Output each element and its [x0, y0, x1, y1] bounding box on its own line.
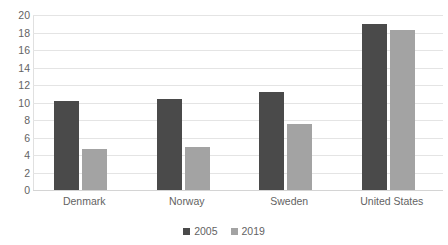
legend-label: 2019	[242, 226, 265, 237]
bar[interactable]	[259, 92, 284, 190]
y-axis-tick-label: 20	[4, 10, 30, 20]
y-axis-tick-label: 12	[4, 80, 30, 90]
bar[interactable]	[287, 124, 312, 191]
legend-swatch-icon	[231, 228, 238, 235]
y-axis-tick-label: 18	[4, 28, 30, 38]
bar-group	[238, 15, 341, 190]
y-axis-tick-labels: 20181614121086420	[0, 15, 30, 191]
x-axis-category-label: United States	[341, 194, 444, 208]
bar[interactable]	[390, 30, 415, 190]
bar[interactable]	[185, 147, 210, 190]
x-axis-category-label: Denmark	[33, 194, 136, 208]
bar[interactable]	[362, 24, 387, 190]
legend-label: 2005	[194, 226, 217, 237]
bar[interactable]	[157, 99, 182, 190]
y-axis-tick-label: 0	[4, 185, 30, 195]
bar[interactable]	[54, 101, 79, 190]
legend-item[interactable]: 2005	[183, 226, 217, 237]
legend-swatch-icon	[183, 228, 190, 235]
y-axis-tick-label: 14	[4, 63, 30, 73]
bar-group	[341, 15, 444, 190]
gridline	[33, 190, 443, 191]
bar-group	[33, 15, 136, 190]
y-axis-tick-label: 2	[4, 168, 30, 178]
y-axis-tick-label: 10	[4, 98, 30, 108]
y-axis-tick-label: 16	[4, 45, 30, 55]
y-axis-tick-label: 4	[4, 150, 30, 160]
x-axis-category-label: Norway	[136, 194, 239, 208]
bar[interactable]	[82, 149, 107, 190]
legend-item[interactable]: 2019	[231, 226, 265, 237]
bar-group	[136, 15, 239, 190]
x-axis-category-label: Sweden	[238, 194, 341, 208]
chart-title	[0, 0, 448, 1]
x-axis-category-labels: DenmarkNorwaySwedenUnited States	[33, 194, 443, 212]
chart-legend: 20052019	[0, 226, 448, 237]
plot-area	[33, 15, 443, 190]
y-axis-tick-label: 8	[4, 115, 30, 125]
y-axis-tick-label: 6	[4, 133, 30, 143]
bar-chart: 20181614121086420 DenmarkNorwaySwedenUni…	[0, 0, 448, 245]
